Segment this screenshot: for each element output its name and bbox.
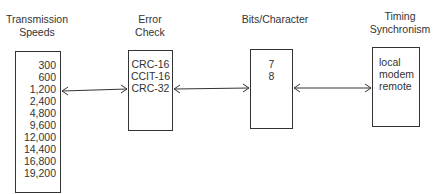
arrow-bits-timing — [294, 84, 371, 92]
arrow-error-check-bits — [174, 84, 249, 93]
arrow-speeds-error-check — [62, 85, 127, 95]
connector-arrows — [0, 0, 439, 194]
